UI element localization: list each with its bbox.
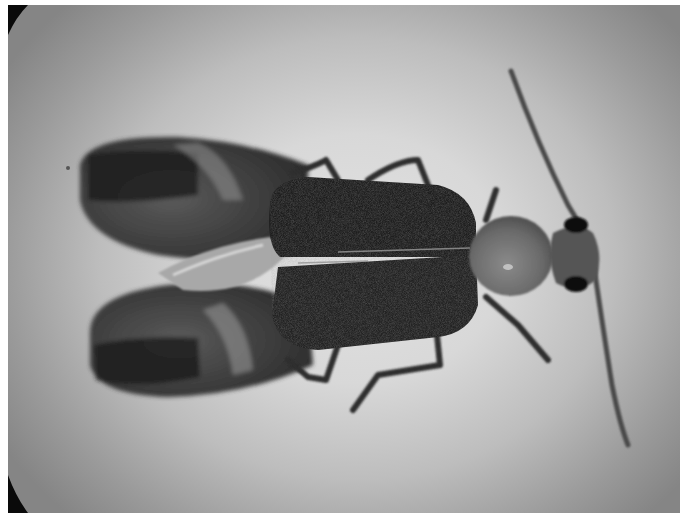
pronotum-highlight xyxy=(503,264,513,270)
beetle-photo: Grayscale microscope photo of a soft-win… xyxy=(8,5,680,513)
vignette-top-left xyxy=(8,5,28,35)
vignette-bottom-left xyxy=(8,475,28,513)
eye-left xyxy=(564,217,588,233)
head xyxy=(550,217,599,292)
elytra xyxy=(269,177,478,350)
pronotum xyxy=(469,216,553,296)
eye-right xyxy=(564,276,588,292)
beetle-illustration xyxy=(8,5,680,513)
dust-speck xyxy=(66,166,70,170)
